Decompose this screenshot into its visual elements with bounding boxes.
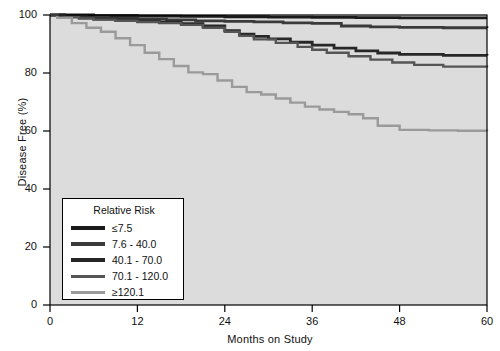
- y-tick-label: 20: [7, 240, 37, 252]
- legend-swatch-icon: [71, 275, 105, 278]
- legend-title: Relative Risk: [63, 204, 185, 216]
- y-tick-label: 60: [7, 124, 37, 136]
- legend-item-label: 7.6 - 40.0: [112, 238, 156, 250]
- x-tick-label: 48: [383, 315, 417, 327]
- legend-item-label: ≥120.1: [112, 286, 144, 298]
- legend-item-label: ≤7.5: [112, 222, 132, 234]
- legend-item-label: 70.1 - 120.0: [112, 270, 168, 282]
- legend-swatch-icon: [71, 242, 105, 246]
- legend-swatch-icon: [71, 258, 105, 262]
- legend-item: 40.1 - 70.0: [71, 253, 183, 267]
- legend-item: ≤7.5: [71, 221, 183, 235]
- legend-swatch-icon: [71, 291, 105, 294]
- y-tick-label: 0: [7, 298, 37, 310]
- legend-item: ≥120.1: [71, 285, 183, 299]
- x-axis-title: Months on Study: [180, 333, 360, 345]
- x-tick-label: 60: [470, 315, 500, 327]
- legend-item-label: 40.1 - 70.0: [112, 254, 162, 266]
- legend: Relative Risk ≤7.57.6 - 40.040.1 - 70.07…: [62, 198, 184, 300]
- legend-item: 7.6 - 40.0: [71, 237, 183, 251]
- chart-figure: Disease Free (%) Months on Study 0204060…: [0, 0, 500, 351]
- y-tick-label: 100: [7, 8, 37, 20]
- x-tick-label: 36: [295, 315, 329, 327]
- x-tick-label: 24: [208, 315, 242, 327]
- x-tick-label: 0: [33, 315, 67, 327]
- legend-item: 70.1 - 120.0: [71, 269, 183, 283]
- x-tick-label: 12: [120, 315, 154, 327]
- y-tick-label: 80: [7, 66, 37, 78]
- legend-swatch-icon: [71, 226, 105, 230]
- y-tick-label: 40: [7, 182, 37, 194]
